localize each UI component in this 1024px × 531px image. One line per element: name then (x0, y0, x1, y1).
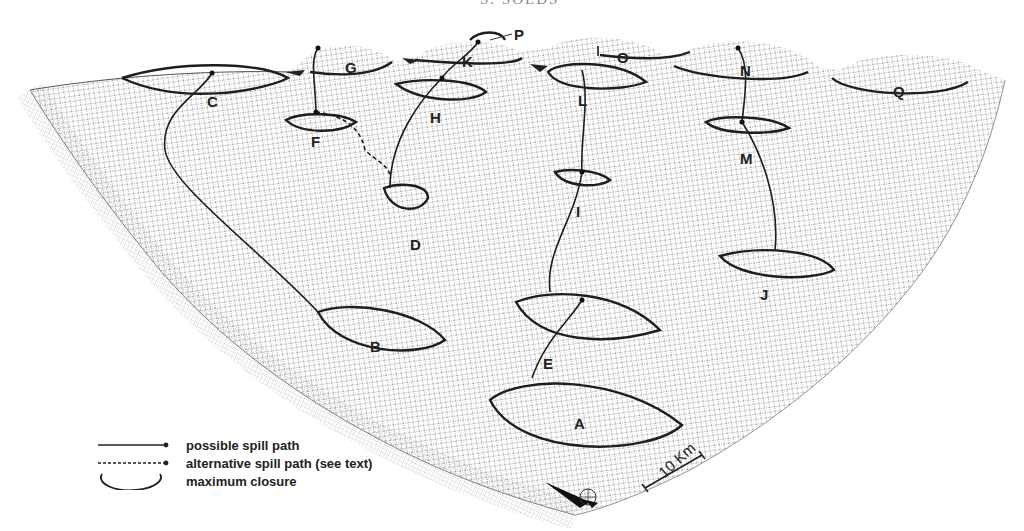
label-A: A (574, 415, 585, 432)
label-H: H (430, 109, 441, 126)
label-G: G (345, 59, 357, 76)
legend: possible spill path alternative spill pa… (96, 436, 372, 490)
legend-item-alt-spill-path: alternative spill path (see text) (96, 454, 372, 472)
label-F: F (311, 133, 320, 150)
label-L: L (578, 92, 587, 109)
closure-P (470, 33, 505, 41)
closure-arc-icon (96, 472, 186, 490)
label-O: O (617, 49, 629, 66)
label-D: D (410, 236, 421, 253)
dashed-line-dot-icon (96, 454, 186, 472)
legend-item-max-closure: maximum closure (96, 472, 372, 490)
label-I: I (576, 203, 580, 220)
label-Q: Q (893, 83, 905, 100)
label-E: E (543, 355, 553, 372)
label-P: P (514, 26, 524, 43)
label-J: J (760, 286, 768, 303)
legend-item-spill-path: possible spill path (96, 436, 372, 454)
label-N: N (740, 62, 751, 79)
label-B: B (370, 338, 381, 355)
label-K: K (462, 53, 473, 70)
solid-line-dot-icon (96, 436, 186, 454)
label-C: C (207, 93, 218, 110)
label-M: M (740, 150, 753, 167)
